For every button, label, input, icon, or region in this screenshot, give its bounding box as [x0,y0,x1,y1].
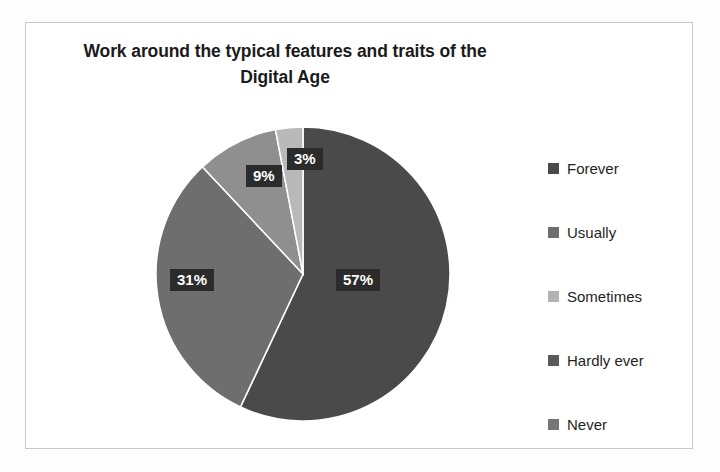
chart-title-line-2: Digital Age [50,64,520,90]
pie-chart: 9% 3% 31% 57% [150,125,456,425]
legend-swatch-icon [548,163,559,174]
pie-slice-label-sometimes: 9% [246,165,282,187]
chart-legend: Forever Usually Sometimes Hardly ever Ne… [548,136,688,456]
legend-swatch-icon [548,355,559,366]
legend-item-usually[interactable]: Usually [548,200,688,264]
pie-slice-label-forever: 57% [336,269,380,291]
legend-swatch-icon [548,419,559,430]
legend-item-hardly-ever[interactable]: Hardly ever [548,328,688,392]
chart-title-line-1: Work around the typical features and tra… [50,38,520,64]
legend-item-forever[interactable]: Forever [548,136,688,200]
legend-label: Never [567,416,607,433]
pie-slice-label-usually: 31% [170,269,214,291]
legend-label: Usually [567,224,616,241]
legend-item-never[interactable]: Never [548,392,688,456]
legend-label: Hardly ever [567,352,644,369]
legend-swatch-icon [548,291,559,302]
legend-item-sometimes[interactable]: Sometimes [548,264,688,328]
chart-page: Work around the typical features and tra… [0,0,720,472]
legend-label: Forever [567,160,619,177]
chart-title: Work around the typical features and tra… [50,38,520,90]
legend-label: Sometimes [567,288,642,305]
legend-swatch-icon [548,227,559,238]
pie-slice-label-hardly-ever: 3% [287,148,323,170]
